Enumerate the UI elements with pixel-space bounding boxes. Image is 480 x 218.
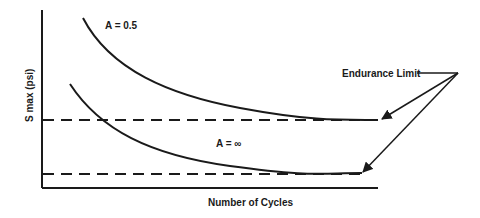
endurance-limit-label: Endurance Limit [342,68,421,79]
x-axis-label: Number of Cycles [208,197,293,208]
sn-diagram: A = 0.5 A = ∞ Endurance Limit Number of … [0,0,480,218]
curve-a-0-5 [83,18,375,120]
y-axis-label: S max (psi) [24,69,35,122]
label-a-0-5: A = 0.5 [105,20,138,31]
label-a-infinity: A = ∞ [216,138,241,149]
curve-a-infinity [70,84,362,174]
arrow-lower [363,73,458,172]
